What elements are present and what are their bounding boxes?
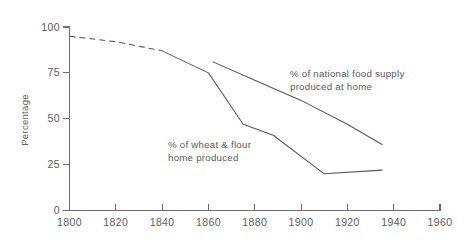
x-tick-label: 1860 [196, 216, 221, 228]
series-annotation-label: % of wheat & flour [168, 139, 252, 150]
y-tick-label: 100 [41, 21, 60, 33]
annotation-group: % of national food supplyproduced at hom… [168, 68, 405, 163]
x-tick-label: 1960 [428, 216, 453, 228]
chart-container: 0255075100 Percentage 180018201840186018… [0, 0, 469, 249]
series-annotation-label: home produced [168, 152, 239, 163]
y-axis-title: Percentage [19, 94, 30, 146]
x-tick-label: 1820 [103, 216, 128, 228]
x-axis-ticks: 180018201840186018801900192019401960 [57, 204, 452, 228]
y-tick-label: 75 [48, 66, 60, 78]
series-line [70, 36, 163, 51]
x-tick-label: 1880 [242, 216, 267, 228]
x-tick-label: 1800 [57, 216, 82, 228]
x-tick-label: 1840 [150, 216, 175, 228]
x-tick-label: 1940 [381, 216, 406, 228]
y-tick-label: 0 [54, 204, 60, 216]
x-tick-label: 1900 [289, 216, 314, 228]
series-annotation-label: % of national food supply [290, 68, 405, 79]
y-tick-label: 50 [48, 112, 60, 124]
y-axis-group: 0255075100 Percentage [19, 21, 70, 217]
y-tick-label: 25 [48, 158, 60, 170]
series-annotation-label: produced at home [290, 81, 372, 92]
x-axis-group: 180018201840186018801900192019401960 [57, 204, 452, 228]
line-chart: 0255075100 Percentage 180018201840186018… [0, 0, 469, 249]
y-axis-ticks: 0255075100 [41, 21, 69, 217]
x-tick-label: 1920 [335, 216, 360, 228]
